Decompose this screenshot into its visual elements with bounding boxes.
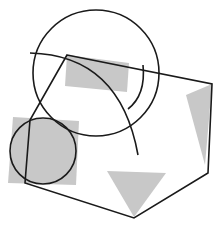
- gray-rectangle-left: [8, 117, 79, 185]
- geometric-diagram: [0, 0, 223, 227]
